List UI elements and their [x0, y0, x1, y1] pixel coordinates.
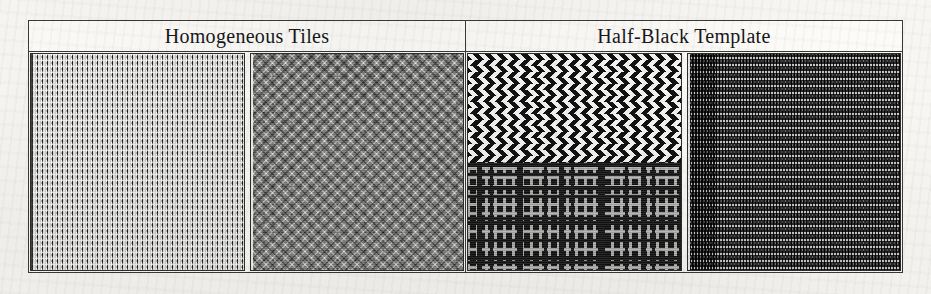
stripe-left-edge-highlight	[688, 54, 901, 270]
texture-panel-triangle-grid	[30, 53, 245, 271]
panel-group-half-black-template	[465, 52, 902, 272]
lattice-left-edge-highlight	[251, 54, 464, 270]
column-header-half-black-template: Half-Black Template	[465, 21, 902, 51]
table-header-row: Homogeneous Tiles Half-Black Template	[29, 21, 902, 52]
figure-table: Homogeneous Tiles Half-Black Template	[28, 20, 903, 273]
texture-panel-horizontal-stripes	[687, 53, 902, 271]
texture-panel-diamond-lattice	[250, 53, 465, 271]
maze-labyrinth-half	[468, 162, 681, 270]
texture-panel-chevron-maze	[467, 53, 682, 271]
triangle-left-edge-shadow	[31, 54, 244, 270]
table-body-row	[29, 52, 902, 272]
panel-group-homogeneous-tiles	[29, 52, 465, 272]
maze-scanline-layer	[468, 162, 681, 270]
column-header-homogeneous-tiles: Homogeneous Tiles	[29, 21, 465, 51]
chevron-zigzag-half	[468, 54, 681, 162]
